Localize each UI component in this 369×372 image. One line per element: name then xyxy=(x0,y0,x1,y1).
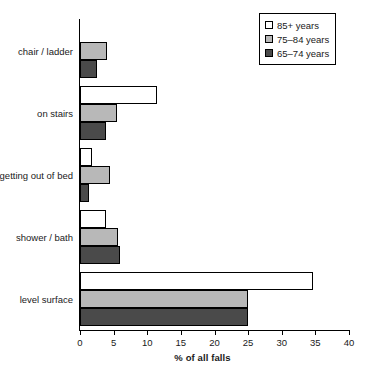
legend-label: 85+ years xyxy=(277,20,319,31)
bar xyxy=(80,228,118,246)
x-tick-label: 40 xyxy=(344,337,355,348)
category-label: on stairs xyxy=(37,108,73,119)
bar-group: shower / bath xyxy=(80,206,349,268)
x-tick-label: 15 xyxy=(176,337,187,348)
bar xyxy=(80,290,248,308)
x-tick-label: 0 xyxy=(77,337,82,348)
x-tick-mark xyxy=(282,331,283,335)
bar xyxy=(80,272,313,290)
x-axis-title: % of all falls xyxy=(0,352,369,363)
category-label: getting out of bed xyxy=(0,170,73,181)
chart-legend: 85+ years75–84 years65–74 years xyxy=(259,13,336,65)
bar xyxy=(80,122,106,140)
bar xyxy=(80,148,92,166)
bar xyxy=(80,308,248,326)
bar xyxy=(80,246,120,264)
x-tick-mark xyxy=(80,331,81,335)
bar-group: getting out of bed xyxy=(80,144,349,206)
bar xyxy=(80,210,106,228)
x-tick-label: 20 xyxy=(209,337,220,348)
bar xyxy=(80,60,97,78)
legend-swatch-icon xyxy=(265,49,273,57)
bar-group: on stairs xyxy=(80,82,349,144)
x-axis-title-text: % of all falls xyxy=(174,352,230,363)
x-tick-label: 30 xyxy=(276,337,287,348)
legend-item: 75–84 years xyxy=(265,32,329,46)
x-tick-label: 25 xyxy=(243,337,254,348)
legend-swatch-icon xyxy=(265,35,273,43)
x-tick-label: 10 xyxy=(142,337,153,348)
bar xyxy=(80,42,107,60)
category-label: level surface xyxy=(20,294,73,305)
bar-group: level surface xyxy=(80,268,349,330)
x-tick-label: 5 xyxy=(111,337,116,348)
falls-by-location-bar-chart: chair / ladderon stairsgetting out of be… xyxy=(0,0,369,372)
legend-label: 65–74 years xyxy=(277,48,329,59)
bar xyxy=(80,86,157,104)
plot-area: chair / ladderon stairsgetting out of be… xyxy=(80,20,349,330)
legend-item: 65–74 years xyxy=(265,46,329,60)
bar xyxy=(80,166,110,184)
bar xyxy=(80,104,117,122)
category-label: chair / ladder xyxy=(18,46,73,57)
bar xyxy=(80,184,89,202)
x-tick-mark xyxy=(349,331,350,335)
x-tick-mark xyxy=(114,331,115,335)
x-tick-mark xyxy=(147,331,148,335)
x-tick-mark xyxy=(248,331,249,335)
legend-label: 75–84 years xyxy=(277,34,329,45)
x-tick-label: 35 xyxy=(310,337,321,348)
legend-swatch-icon xyxy=(265,21,273,29)
legend-item: 85+ years xyxy=(265,18,329,32)
x-tick-mark xyxy=(315,331,316,335)
category-label: shower / bath xyxy=(16,232,73,243)
x-tick-mark xyxy=(215,331,216,335)
x-tick-mark xyxy=(181,331,182,335)
